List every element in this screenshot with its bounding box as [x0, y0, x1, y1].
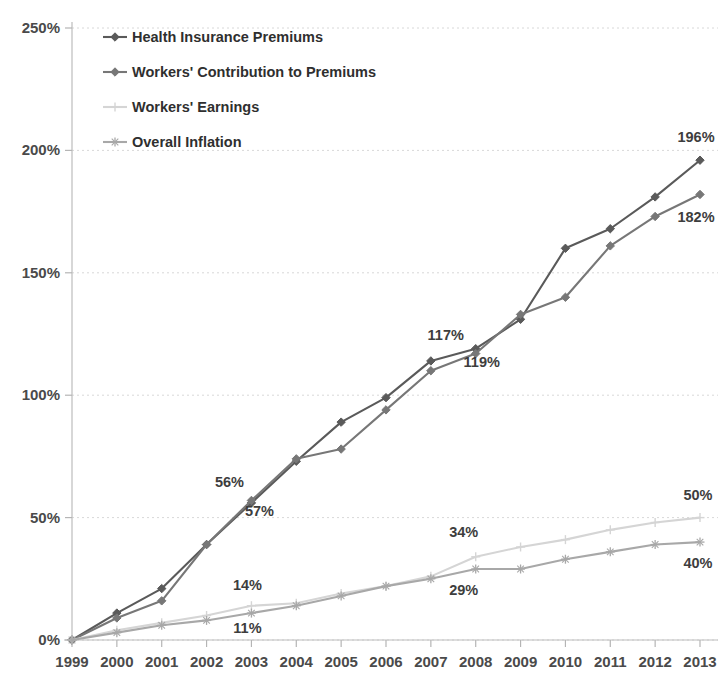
data-point-marker: [471, 552, 480, 561]
data-label: 29%: [449, 582, 478, 598]
x-tick-label: 2001: [145, 653, 178, 670]
x-tick-label: 2006: [369, 653, 402, 670]
legend-label: Overall Inflation: [132, 134, 242, 150]
y-tick-label: 50%: [30, 509, 60, 526]
legend-item-3[interactable]: Workers' Earnings: [103, 99, 259, 115]
y-tick-label: 250%: [22, 19, 60, 36]
y-tick-label: 150%: [22, 264, 60, 281]
data-point-marker: [696, 190, 704, 198]
x-tick-label: 2003: [235, 653, 268, 670]
gridlines-group: [72, 28, 718, 640]
x-tick-label: 2000: [100, 653, 133, 670]
data-label: 11%: [233, 620, 261, 636]
data-labels-group: 56%57%117%119%196%182%14%11%34%29%50%40%: [215, 129, 715, 636]
chart-container: 0%50%100%150%200%250% 199920002001200220…: [0, 0, 725, 683]
y-tick-label: 0%: [38, 631, 60, 648]
data-label: 40%: [683, 555, 712, 571]
data-point-marker: [516, 542, 525, 551]
x-tick-label: 2004: [280, 653, 314, 670]
data-label: 50%: [683, 487, 712, 503]
x-tick-label: 2002: [190, 653, 223, 670]
data-point-marker: [202, 616, 211, 625]
legend-label: Workers' Contribution to Premiums: [132, 64, 376, 80]
x-tick-label: 2010: [549, 653, 582, 670]
y-tick-label: 200%: [22, 141, 60, 158]
data-label: 57%: [245, 503, 274, 519]
series-line: [72, 194, 700, 640]
data-point-marker: [561, 535, 570, 544]
x-axis-tick-labels: 1999200020012002200320042005200620072008…: [55, 640, 716, 670]
data-label: 14%: [233, 577, 262, 593]
data-point-marker: [382, 582, 391, 591]
series-2: [68, 190, 704, 644]
legend-label: Workers' Earnings: [132, 99, 259, 115]
data-label: 56%: [215, 474, 244, 490]
data-point-marker: [516, 565, 525, 574]
x-tick-label: 2007: [414, 653, 447, 670]
data-point-marker: [111, 68, 119, 76]
y-tick-label: 100%: [22, 386, 60, 403]
data-point-marker: [426, 574, 435, 583]
data-point-marker: [112, 628, 121, 637]
series-group: [68, 156, 705, 645]
legend-item-4[interactable]: Overall Inflation: [103, 134, 242, 150]
data-label: 119%: [464, 354, 500, 370]
data-point-marker: [651, 518, 660, 527]
legend-item-1[interactable]: Health Insurance Premiums: [103, 29, 323, 45]
legend-item-2[interactable]: Workers' Contribution to Premiums: [103, 64, 376, 80]
data-point-marker: [111, 33, 119, 41]
x-tick-label: 2013: [683, 653, 716, 670]
data-point-marker: [651, 540, 660, 549]
series-line: [72, 518, 700, 640]
legend: Health Insurance PremiumsWorkers' Contri…: [103, 29, 376, 150]
data-point-marker: [606, 547, 615, 556]
data-point-marker: [337, 591, 346, 600]
data-point-marker: [111, 103, 120, 112]
data-point-marker: [561, 555, 570, 564]
series-1: [68, 156, 704, 644]
x-tick-label: 2009: [504, 653, 537, 670]
data-point-marker: [606, 525, 615, 534]
y-axis-tick-labels: 0%50%100%150%200%250%: [22, 19, 72, 648]
x-tick-label: 2005: [324, 653, 357, 670]
data-point-marker: [696, 538, 705, 547]
x-tick-label: 2011: [594, 653, 627, 670]
data-label: 34%: [449, 524, 478, 540]
line-chart: 0%50%100%150%200%250% 199920002001200220…: [0, 0, 725, 683]
data-label: 196%: [677, 129, 714, 145]
data-label: 182%: [677, 209, 714, 225]
legend-label: Health Insurance Premiums: [132, 29, 323, 45]
x-tick-label: 2008: [459, 653, 492, 670]
data-point-marker: [292, 601, 301, 610]
data-point-marker: [471, 565, 480, 574]
data-point-marker: [68, 636, 77, 645]
data-point-marker: [696, 513, 705, 522]
data-label: 117%: [428, 327, 464, 343]
data-point-marker: [157, 621, 166, 630]
x-tick-label: 1999: [55, 653, 88, 670]
data-point-marker: [247, 609, 256, 618]
data-point-marker: [111, 138, 120, 147]
x-tick-label: 2012: [638, 653, 671, 670]
